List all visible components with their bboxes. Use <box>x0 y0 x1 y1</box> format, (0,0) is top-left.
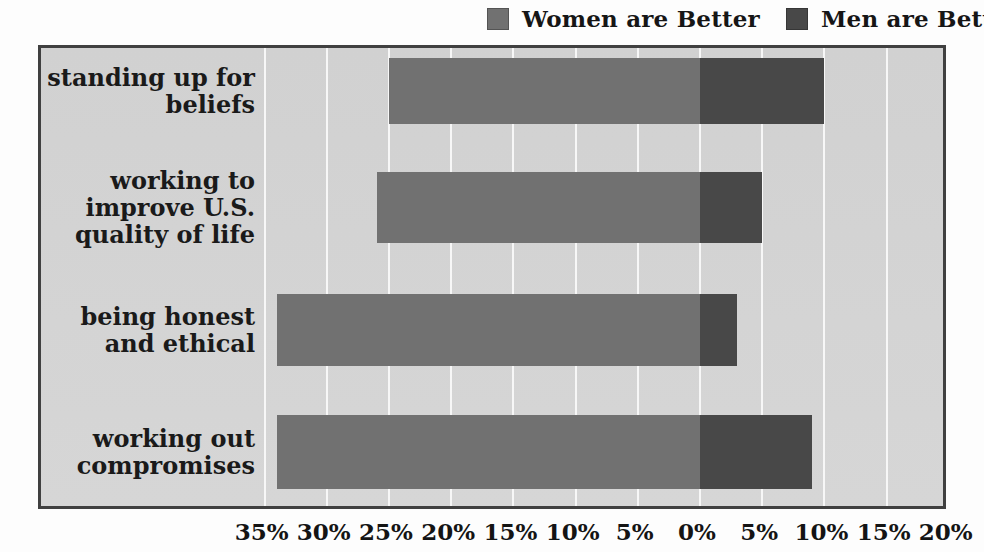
bar-women-3 <box>277 415 700 489</box>
legend-swatch-women <box>487 8 509 30</box>
x-tick-label: 0% <box>678 518 716 545</box>
x-tick-label: 5% <box>616 518 654 545</box>
legend-item-men: Men are Better <box>786 5 984 32</box>
gridline <box>886 48 888 506</box>
category-label-1: working to improve U.S. quality of life <box>41 172 255 243</box>
plot-area: standing up for beliefsworking to improv… <box>38 45 946 509</box>
bar-women-0 <box>389 58 700 124</box>
chart-figure: Women are Better Men are Better standing… <box>0 0 984 552</box>
gridline <box>264 48 266 506</box>
x-tick-label: 20% <box>421 518 475 545</box>
legend-label-men: Men are Better <box>821 5 984 32</box>
bar-men-2 <box>700 294 737 366</box>
x-tick-label: 35% <box>235 518 289 545</box>
x-axis: 35%30%25%20%15%10%5%0%5%10%15%20% <box>0 518 984 548</box>
bar-women-1 <box>377 172 700 243</box>
x-tick-label: 5% <box>740 518 778 545</box>
legend-label-women: Women are Better <box>522 5 760 32</box>
legend-item-women: Women are Better <box>487 5 760 32</box>
bar-men-3 <box>700 415 812 489</box>
category-label-3: working out compromises <box>41 415 255 489</box>
category-label-2: being honest and ethical <box>41 294 255 366</box>
x-tick-label: 15% <box>857 518 911 545</box>
category-label-0: standing up for beliefs <box>41 58 255 124</box>
x-tick-label: 10% <box>546 518 600 545</box>
bar-men-0 <box>700 58 824 124</box>
x-tick-label: 25% <box>359 518 413 545</box>
x-tick-label: 15% <box>483 518 537 545</box>
legend-swatch-men <box>786 8 808 30</box>
bar-women-2 <box>277 294 700 366</box>
bar-men-1 <box>700 172 762 243</box>
x-tick-label: 30% <box>297 518 351 545</box>
chart-legend: Women are Better Men are Better <box>487 5 984 32</box>
x-tick-label: 20% <box>919 518 973 545</box>
x-tick-label: 10% <box>794 518 848 545</box>
